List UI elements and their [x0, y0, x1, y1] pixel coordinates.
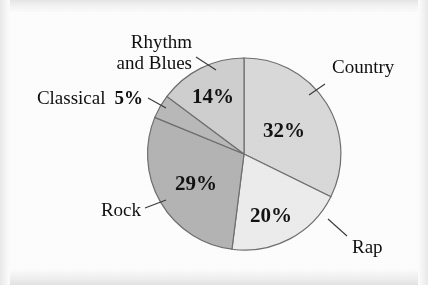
slice-label-classical-name: Classical: [37, 87, 106, 108]
slice-value-country: 32%: [263, 118, 305, 142]
slice-value-rhythm-and-blues: 14%: [192, 84, 234, 108]
slice-label-rock: Rock: [101, 199, 142, 220]
pie-chart-svg: 32% 20% 29% 14% Country Rap Rock Classic…: [0, 0, 428, 285]
slice-label-rap: Rap: [352, 236, 383, 257]
slice-label-country: Country: [332, 56, 395, 77]
slice-label-rhythm-and-blues-line2: and Blues: [117, 52, 192, 73]
slice-label-classical: Classical 5%: [37, 87, 143, 108]
slice-value-rap: 20%: [250, 203, 292, 227]
leader-line-rap: [328, 219, 347, 236]
slice-label-classical-value: 5%: [115, 87, 144, 108]
slice-value-rock: 29%: [175, 171, 217, 195]
slice-label-rhythm-and-blues-line1: Rhythm: [131, 31, 192, 52]
pie-chart-figure: 32% 20% 29% 14% Country Rap Rock Classic…: [0, 0, 428, 285]
